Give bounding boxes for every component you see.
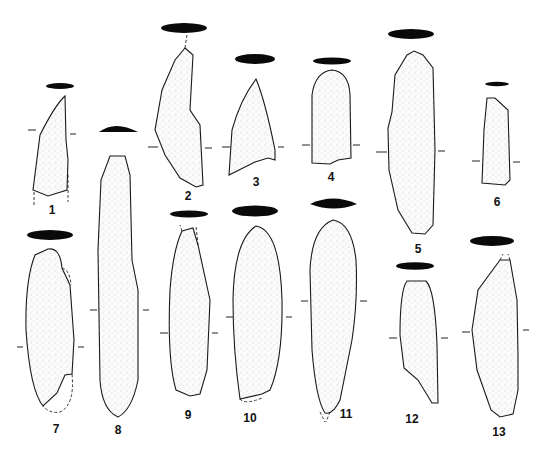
artifact-label-10: 10 xyxy=(243,411,256,425)
cross-section-12 xyxy=(396,262,434,270)
cross-section-13 xyxy=(470,236,514,246)
artifact-label-8: 8 xyxy=(115,423,122,437)
artifact-label-3: 3 xyxy=(253,175,260,189)
cross-section-7 xyxy=(27,230,73,240)
cross-section-4 xyxy=(313,58,351,65)
cross-section-11 xyxy=(310,199,357,209)
artifact-plate xyxy=(0,0,547,458)
artifact-6 xyxy=(472,82,520,185)
artifact-label-9: 9 xyxy=(185,408,192,422)
artifact-5 xyxy=(376,29,445,234)
artifact-3 xyxy=(222,54,284,175)
artifact-1 xyxy=(28,83,76,205)
cross-section-3 xyxy=(235,54,275,64)
cross-section-10 xyxy=(232,206,278,217)
artifact-label-2: 2 xyxy=(185,189,192,203)
artifact-7 xyxy=(17,230,84,412)
artifact-13 xyxy=(462,236,529,417)
cross-section-8 xyxy=(99,126,138,132)
artifact-label-11: 11 xyxy=(340,407,353,421)
artifact-label-5: 5 xyxy=(415,242,422,256)
artifact-label-12: 12 xyxy=(405,412,418,426)
artifact-9 xyxy=(160,211,218,397)
cross-section-1 xyxy=(46,83,74,89)
cross-section-6 xyxy=(485,82,509,86)
artifact-label-1: 1 xyxy=(49,203,56,217)
artifact-label-4: 4 xyxy=(328,170,335,184)
artifact-label-7: 7 xyxy=(53,422,60,436)
artifact-4 xyxy=(302,58,360,165)
artifact-12 xyxy=(389,262,448,403)
artifact-10 xyxy=(226,206,292,402)
cross-section-9 xyxy=(170,211,208,218)
artifact-8 xyxy=(90,126,149,417)
artifact-label-13: 13 xyxy=(492,425,505,439)
artifact-11 xyxy=(301,199,367,423)
cross-section-5 xyxy=(388,29,434,39)
artifact-2 xyxy=(148,23,212,187)
artifact-label-6: 6 xyxy=(494,195,501,209)
cross-section-2 xyxy=(161,23,207,33)
